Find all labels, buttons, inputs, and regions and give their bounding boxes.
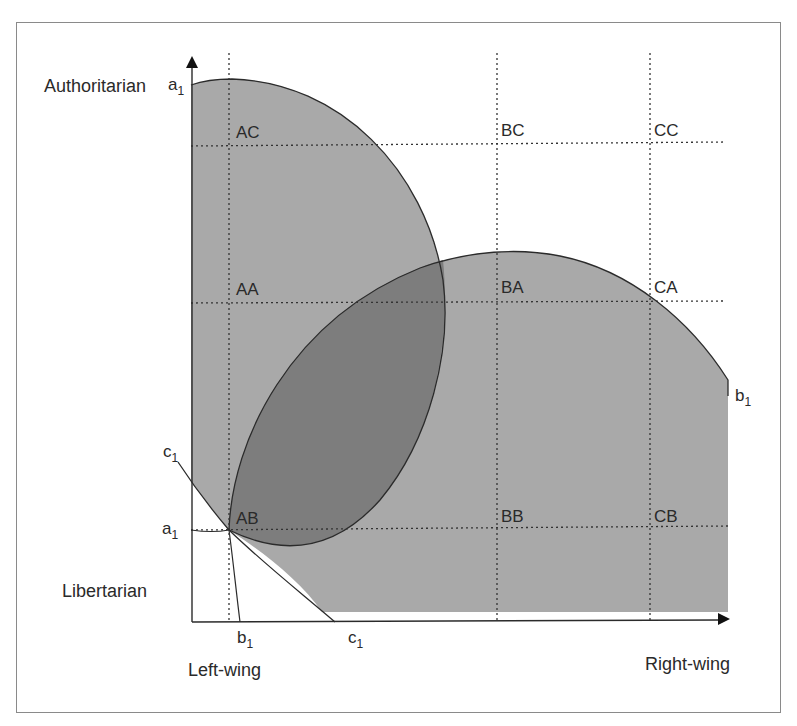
- label-c1-bottom: c1: [348, 628, 364, 651]
- cell-BC: BC: [501, 121, 525, 140]
- cell-CC: CC: [654, 121, 679, 140]
- cell-BB: BB: [501, 507, 524, 526]
- label-libertarian: Libertarian: [62, 581, 147, 601]
- cell-BA: BA: [501, 278, 524, 297]
- label-right-wing: Right-wing: [645, 654, 730, 674]
- x-axis-arrow-icon: [718, 613, 730, 625]
- curve-b1-bottom: [229, 530, 240, 622]
- label-a1-left: a1: [162, 519, 178, 542]
- cell-CB: CB: [654, 507, 678, 526]
- y-axis-arrow-icon: [186, 56, 198, 68]
- label-c1-left: c1: [163, 442, 179, 465]
- cell-AA: AA: [236, 280, 259, 299]
- label-a1-top: a1: [168, 75, 184, 98]
- ideology-diagram: Authoritarian Libertarian Left-wing Righ…: [0, 0, 797, 726]
- cell-AB: AB: [236, 509, 259, 528]
- label-b1-bottom: b1: [237, 628, 253, 651]
- label-b1-right: b1: [735, 386, 751, 409]
- cell-CA: CA: [654, 278, 678, 297]
- x-axis: [192, 620, 720, 622]
- label-authoritarian: Authoritarian: [44, 76, 146, 96]
- label-left-wing: Left-wing: [188, 660, 261, 680]
- cell-AC: AC: [236, 123, 260, 142]
